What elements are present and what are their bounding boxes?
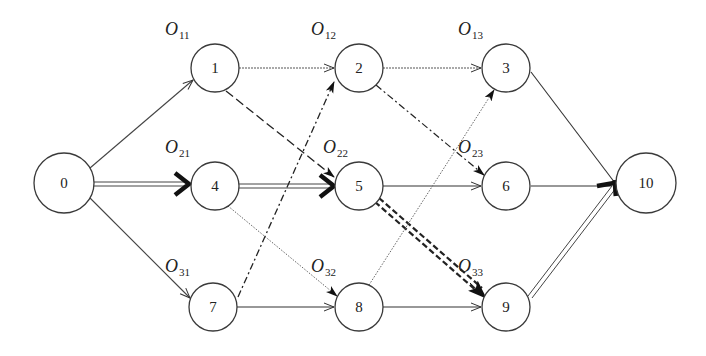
op-label-o22: O22 — [323, 137, 348, 159]
network-diagram: O11 O12 O13 O21 O22 O23 O31 O32 O33 0 1 … — [0, 0, 706, 356]
edge-5-9 — [375, 198, 486, 298]
op-label-o31: O31 — [165, 256, 190, 278]
node-10-label: 10 — [639, 175, 654, 191]
node-0-label: 0 — [60, 175, 68, 191]
node-4: 4 — [191, 162, 239, 210]
nodes: 0 1 2 3 4 5 6 7 — [34, 44, 676, 331]
op-label-o32: O32 — [311, 256, 336, 278]
edge-6-10 — [531, 183, 614, 186]
edge-3-10 — [531, 72, 615, 183]
node-3-label: 3 — [502, 60, 510, 76]
node-5-label: 5 — [355, 178, 363, 194]
node-10: 10 — [616, 153, 676, 213]
op-label-o12: O12 — [311, 19, 336, 41]
op-label-o11: O11 — [165, 19, 190, 41]
edge-4-5 — [239, 175, 334, 197]
node-7-label: 7 — [209, 299, 217, 315]
node-2: 2 — [335, 44, 383, 92]
node-4-label: 4 — [211, 178, 219, 194]
edge-1-5 — [226, 91, 334, 177]
op-label-o13: O13 — [458, 19, 484, 41]
node-9-label: 9 — [502, 299, 510, 315]
node-1-label: 1 — [211, 60, 219, 76]
node-0: 0 — [34, 153, 94, 213]
edge-0-7 — [90, 198, 190, 298]
node-6: 6 — [482, 162, 530, 210]
edge-0-4 — [94, 173, 189, 195]
edge-9-10 — [528, 180, 616, 298]
node-9: 9 — [482, 283, 530, 331]
node-8: 8 — [335, 283, 383, 331]
op-label-o23: O23 — [458, 137, 484, 159]
node-1: 1 — [191, 44, 239, 92]
edge-8-3 — [369, 90, 494, 285]
node-7: 7 — [189, 283, 237, 331]
node-3: 3 — [482, 44, 530, 92]
op-label-o33: O33 — [458, 256, 484, 278]
node-6-label: 6 — [502, 178, 510, 194]
node-2-label: 2 — [355, 60, 363, 76]
op-label-o21: O21 — [165, 137, 190, 159]
node-8-label: 8 — [355, 299, 363, 315]
node-5: 5 — [335, 162, 383, 210]
